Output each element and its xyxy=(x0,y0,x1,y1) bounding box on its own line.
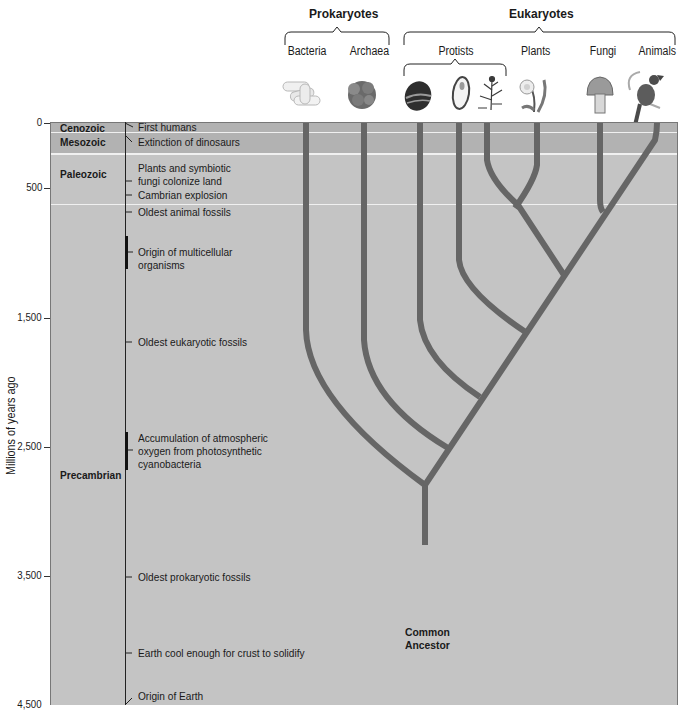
common-ancestor-label: Common Ancestor xyxy=(405,626,450,652)
common-ancestor-line: Ancestor xyxy=(405,639,450,652)
branch-archaea xyxy=(364,123,448,448)
branch-protist-2 xyxy=(459,123,527,333)
branch-protist-3 xyxy=(487,123,564,275)
branch-protist-1 xyxy=(420,123,480,397)
common-ancestor-line: Common xyxy=(405,626,450,639)
branch-plants xyxy=(515,123,537,208)
branch-fungi xyxy=(600,123,603,212)
